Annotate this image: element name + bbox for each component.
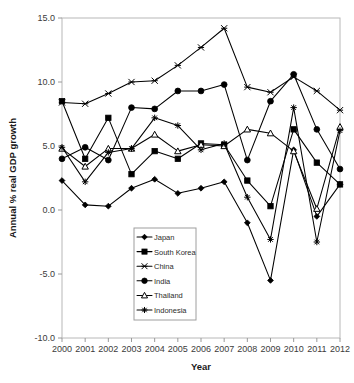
marker-x-cross (82, 101, 88, 107)
marker-x-cross (105, 90, 111, 96)
marker-x-cross (152, 78, 158, 84)
data-series-layer (59, 25, 343, 283)
marker-diamond-filled (198, 185, 204, 191)
marker-x-cross (221, 25, 227, 31)
marker-x-cross (128, 79, 134, 85)
x-axis-tick-labels: 2000200120022003200420052006200720082009… (52, 344, 350, 354)
marker-diamond-filled (175, 190, 181, 196)
y-tick-label: 0.0 (42, 205, 55, 215)
legend-label: China (154, 262, 174, 271)
marker-diamond-filled (244, 220, 250, 226)
marker-square-filled (337, 182, 342, 187)
x-tick-label: 2008 (237, 344, 257, 354)
x-tick-label: 2005 (168, 344, 188, 354)
plot-area-border (62, 18, 340, 338)
y-tick-label: -5.0 (39, 269, 55, 279)
x-tick-label: 2002 (98, 344, 118, 354)
series-thailand (59, 124, 343, 212)
y-tick-label: 10.0 (37, 77, 55, 87)
marker-circle-filled (129, 105, 135, 111)
legend-label: Japan (154, 233, 174, 242)
marker-square-filled (82, 156, 87, 161)
marker-circle-filled (337, 166, 343, 172)
marker-star-plus (290, 104, 296, 110)
chart-svg: 15.010.05.00.0-5.0-10.0 2000200120022003… (0, 0, 354, 383)
marker-star-plus (314, 239, 320, 245)
marker-circle-filled (268, 98, 274, 104)
marker-square-filled (245, 178, 250, 183)
x-tick-label: 2010 (284, 344, 304, 354)
legend-label: Indonesia (154, 306, 187, 315)
marker-square-filled (142, 249, 147, 254)
marker-diamond-filled (268, 278, 274, 284)
marker-x-cross (175, 62, 181, 68)
marker-x-cross (314, 88, 320, 94)
x-tick-label: 2003 (121, 344, 141, 354)
marker-star-plus (198, 147, 204, 153)
marker-triangle-open (151, 131, 157, 137)
legend-label: India (154, 277, 171, 286)
marker-diamond-filled (221, 179, 227, 185)
marker-circle-filled (175, 88, 181, 94)
marker-star-plus (244, 194, 250, 200)
marker-star-plus (221, 140, 227, 146)
marker-star-plus (105, 149, 111, 155)
marker-square-filled (152, 148, 157, 153)
y-tick-label: -10.0 (34, 333, 55, 343)
marker-x-cross (267, 89, 273, 95)
marker-star-plus (337, 127, 343, 133)
marker-circle-filled (221, 82, 227, 88)
marker-star-plus (267, 236, 273, 242)
x-tick-label: 2009 (260, 344, 280, 354)
marker-x-cross (244, 84, 250, 90)
x-axis-title: Year (191, 361, 211, 372)
marker-x-cross (198, 44, 204, 50)
series-indonesia (59, 104, 343, 245)
y-axis-tick-labels: 15.010.05.00.0-5.0-10.0 (34, 13, 55, 343)
x-tick-label: 2004 (145, 344, 165, 354)
marker-circle-filled (105, 157, 111, 163)
marker-square-filled (106, 115, 111, 120)
series-china (59, 25, 343, 113)
x-tick-label: 2007 (214, 344, 234, 354)
x-tick-label: 2006 (191, 344, 211, 354)
legend-label: Thailand (154, 291, 183, 300)
marker-triangle-open (244, 126, 250, 132)
x-axis-tickmarks (62, 338, 340, 342)
marker-square-filled (175, 156, 180, 161)
x-tick-label: 2011 (307, 344, 326, 354)
x-tick-label: 2012 (330, 344, 350, 354)
y-tick-label: 15.0 (37, 13, 55, 23)
marker-square-filled (129, 171, 134, 176)
marker-star-plus (175, 122, 181, 128)
marker-circle-filled (198, 88, 204, 94)
marker-circle-filled (244, 157, 250, 163)
y-tick-label: 5.0 (42, 141, 55, 151)
marker-circle-filled (291, 71, 297, 77)
marker-circle-filled (82, 144, 88, 150)
chart-legend: JapanSouth KoreaChinaIndiaThailandIndone… (134, 228, 197, 320)
marker-square-filled (291, 127, 296, 132)
marker-circle-filled (152, 106, 158, 112)
y-axis-title: Annual % real GDP growth (7, 118, 18, 238)
marker-star-plus (128, 145, 134, 151)
marker-square-filled (314, 160, 319, 165)
marker-star-plus (59, 144, 65, 150)
marker-circle-filled (142, 278, 148, 284)
marker-star-plus (141, 307, 147, 313)
marker-circle-filled (59, 156, 65, 162)
marker-star-plus (151, 115, 157, 121)
series-india (59, 71, 343, 172)
marker-diamond-filled (152, 176, 158, 182)
x-tick-label: 2001 (75, 344, 95, 354)
legend-label: South Korea (154, 248, 197, 257)
x-tick-label: 2000 (52, 344, 72, 354)
marker-circle-filled (314, 126, 320, 132)
marker-star-plus (82, 179, 88, 185)
gdp-growth-line-chart: 15.010.05.00.0-5.0-10.0 2000200120022003… (0, 0, 354, 383)
marker-square-filled (268, 203, 273, 208)
